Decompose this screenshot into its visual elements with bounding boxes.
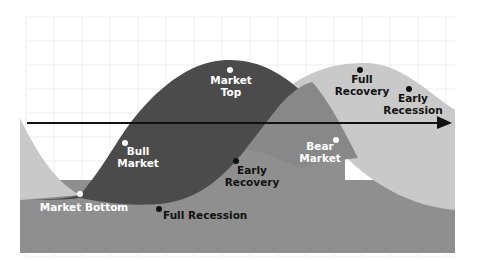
svg-text:Market: Market bbox=[117, 157, 159, 169]
svg-text:Top: Top bbox=[221, 86, 242, 98]
svg-text:Full Recession: Full Recession bbox=[163, 209, 247, 221]
diagram-canvas: Market Top Full Recovery Early Recession… bbox=[0, 0, 477, 270]
market-cycle-diagram: Market Top Full Recovery Early Recession… bbox=[0, 0, 477, 270]
svg-text:Recovery: Recovery bbox=[335, 85, 390, 97]
svg-text:Full: Full bbox=[351, 73, 372, 85]
label-full-recession: Full Recession bbox=[156, 206, 247, 221]
svg-text:Bull: Bull bbox=[127, 145, 150, 157]
svg-text:Market Bottom: Market Bottom bbox=[40, 201, 129, 213]
svg-text:Recession: Recession bbox=[383, 104, 442, 116]
svg-text:Market: Market bbox=[299, 152, 341, 164]
svg-text:Bear: Bear bbox=[306, 140, 334, 152]
svg-text:Early: Early bbox=[398, 92, 428, 104]
svg-text:Early: Early bbox=[237, 164, 267, 176]
svg-text:Recovery: Recovery bbox=[225, 176, 280, 188]
svg-text:Market: Market bbox=[210, 74, 252, 86]
